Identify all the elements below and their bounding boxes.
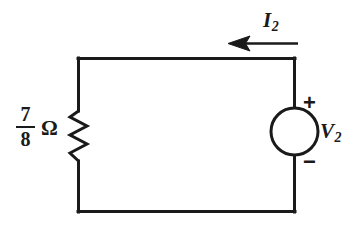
- current-label-symbol: I: [263, 8, 271, 32]
- voltage-source-label: V2: [320, 121, 342, 145]
- current-label-subscript: 2: [272, 19, 279, 34]
- resistor-zigzag: [70, 111, 87, 161]
- voltage-label-subscript: 2: [335, 130, 342, 145]
- current-label: I2: [263, 10, 279, 34]
- source-polarity-plus: +: [303, 92, 316, 114]
- resistance-denominator: 8: [20, 128, 32, 150]
- source-polarity-minus: −: [303, 151, 316, 173]
- voltage-label-symbol: V: [320, 119, 334, 143]
- voltage-source-circle: [271, 108, 318, 155]
- resistance-numerator: 7: [20, 104, 32, 126]
- resistor-value-label: 7 8 Ω: [16, 104, 58, 150]
- resistance-fraction: 7 8: [16, 104, 35, 150]
- circuit-diagram: I2 V2 + − 7 8 Ω: [0, 0, 362, 226]
- ohm-unit-symbol: Ω: [41, 118, 58, 139]
